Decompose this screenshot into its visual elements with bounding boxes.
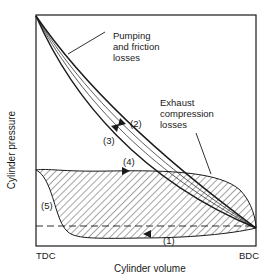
y-axis-label: Cylinder pressure	[6, 111, 17, 189]
exhaust-label-1: Exhaust	[160, 97, 194, 108]
stroke-label-3: (3)	[103, 135, 115, 146]
pumping-label-1: Pumping	[113, 30, 151, 41]
exhaust-leader	[196, 133, 211, 174]
tdc-label: TDC	[36, 250, 56, 261]
exhaust-label-2: compression	[160, 108, 214, 119]
stroke-label-5: (5)	[41, 200, 53, 211]
bdc-label: BDC	[239, 250, 259, 261]
x-axis-label: Cylinder volume	[114, 263, 186, 274]
stroke-label-4: (4)	[123, 156, 135, 167]
stroke-label-1: (1)	[163, 235, 175, 246]
exhaust-label-3: losses	[160, 119, 187, 130]
stroke-label-2: (2)	[130, 118, 142, 129]
pumping-leader	[68, 32, 105, 54]
pumping-label-2: and friction	[113, 41, 159, 52]
pumping-label-3: losses	[113, 52, 140, 63]
